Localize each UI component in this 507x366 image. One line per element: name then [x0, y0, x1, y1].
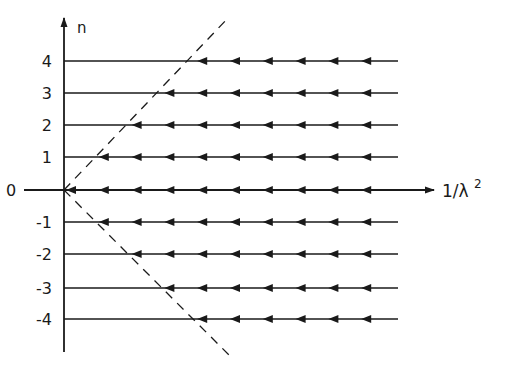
- flow-arrow-icon: [197, 250, 207, 258]
- x-axis-label-superscript: 2: [474, 177, 482, 191]
- flow-arrow-icon: [263, 57, 273, 65]
- flow-arrow-icon: [328, 186, 338, 194]
- tick-label: 0: [6, 181, 16, 200]
- tick-label: -2: [36, 245, 52, 264]
- flow-arrow-icon: [164, 284, 174, 292]
- flow-arrow-icon: [328, 315, 338, 323]
- tick-label: 1: [42, 148, 52, 167]
- tick-label: 3: [42, 84, 52, 103]
- x-axis-label: 1/λ 2: [442, 177, 482, 201]
- tick-label: -4: [36, 310, 52, 329]
- flow-arrow-icon: [296, 153, 306, 161]
- tick-label: 2: [42, 116, 52, 135]
- flow-arrow-icon: [197, 218, 207, 226]
- flow-arrow-icon: [164, 186, 174, 194]
- flow-arrow-icon: [361, 153, 371, 161]
- flow-arrow-icon: [197, 153, 207, 161]
- flow-arrow-icon: [296, 186, 306, 194]
- flow-arrow-icon: [230, 250, 240, 258]
- flow-arrow-icon: [197, 315, 207, 323]
- flow-arrow-icon: [296, 315, 306, 323]
- flow-arrow-icon: [361, 284, 371, 292]
- flow-arrow-icon: [361, 121, 371, 129]
- flow-arrow-icon: [230, 186, 240, 194]
- flow-arrow-icon: [230, 89, 240, 97]
- flow-arrow-icon: [328, 121, 338, 129]
- flow-arrow-icon: [230, 218, 240, 226]
- flow-arrow-icon: [230, 153, 240, 161]
- flow-arrow-icon: [328, 57, 338, 65]
- flow-diagram: n 1/λ 2 43210-1-2-3-4: [0, 0, 507, 366]
- flow-arrow-icon: [361, 315, 371, 323]
- tick-label: 4: [42, 52, 52, 71]
- flow-arrow-icon: [197, 284, 207, 292]
- flow-arrow-icon: [132, 186, 142, 194]
- flow-arrow-icon: [263, 121, 273, 129]
- flow-arrow-icon: [99, 153, 109, 161]
- flow-arrow-icon: [197, 57, 207, 65]
- flow-arrow-icon: [164, 218, 174, 226]
- flow-arrow-icon: [263, 153, 273, 161]
- flow-arrow-icon: [197, 121, 207, 129]
- flow-arrow-icon: [263, 284, 273, 292]
- flow-arrow-icon: [164, 153, 174, 161]
- tick-label: -1: [36, 213, 52, 232]
- flow-arrow-icon: [164, 250, 174, 258]
- x-axis-label-main: 1/λ: [442, 181, 469, 201]
- flow-arrow-icon: [132, 153, 142, 161]
- flow-arrow-icon: [361, 218, 371, 226]
- flow-arrow-icon: [296, 218, 306, 226]
- flow-arrow-icon: [230, 315, 240, 323]
- flow-arrow-icon: [361, 250, 371, 258]
- flow-arrow-icon: [197, 186, 207, 194]
- flow-arrow-icon: [361, 186, 371, 194]
- flow-arrow-icon: [132, 250, 142, 258]
- flow-arrow-icon: [230, 57, 240, 65]
- flow-arrow-icon: [361, 89, 371, 97]
- flow-arrow-icon: [296, 121, 306, 129]
- flow-arrow-icon: [328, 153, 338, 161]
- flow-arrow-icon: [99, 186, 109, 194]
- flow-arrow-icon: [328, 89, 338, 97]
- flow-arrow-icon: [296, 250, 306, 258]
- flow-arrow-icon: [164, 89, 174, 97]
- flow-arrow-icon: [164, 121, 174, 129]
- flow-arrow-icon: [197, 89, 207, 97]
- flow-arrow-icon: [296, 284, 306, 292]
- flow-arrow-icon: [296, 89, 306, 97]
- flow-arrow-icon: [99, 218, 109, 226]
- lower-dashed-line: [64, 190, 230, 356]
- tick-label: -3: [36, 279, 52, 298]
- flow-arrow-icon: [132, 218, 142, 226]
- flow-arrow-icon: [230, 284, 240, 292]
- y-axis-label: n: [77, 19, 87, 37]
- flow-arrow-icon: [328, 284, 338, 292]
- flow-arrow-icon: [132, 121, 142, 129]
- flow-arrow-icon: [296, 57, 306, 65]
- flow-arrow-icon: [263, 315, 273, 323]
- flow-arrow-icon: [328, 250, 338, 258]
- flow-arrow-icon: [328, 218, 338, 226]
- flow-arrow-icon: [263, 186, 273, 194]
- flow-arrow-icon: [263, 218, 273, 226]
- flow-arrow-icon: [263, 250, 273, 258]
- upper-dashed-line: [64, 17, 229, 190]
- flow-arrow-icon: [263, 89, 273, 97]
- flow-arrow-icon: [230, 121, 240, 129]
- flow-arrow-icon: [361, 57, 371, 65]
